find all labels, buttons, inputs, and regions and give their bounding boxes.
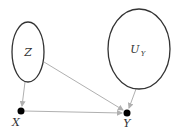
node-x-label: X <box>11 116 21 129</box>
node-y-label: Y <box>123 117 132 130</box>
edge-z-to-x <box>22 82 25 106</box>
node-uy-subscript: Y <box>141 50 147 58</box>
edge-uy-to-y <box>129 89 136 108</box>
node-x-point <box>18 108 25 115</box>
node-y-point <box>124 110 131 117</box>
causal-diagram: Z U Y X Y <box>0 0 184 131</box>
edge-x-to-y <box>24 111 122 113</box>
node-uy-label: U <box>130 43 140 56</box>
node-z-label: Z <box>23 46 32 59</box>
edge-z-to-y <box>44 62 123 110</box>
